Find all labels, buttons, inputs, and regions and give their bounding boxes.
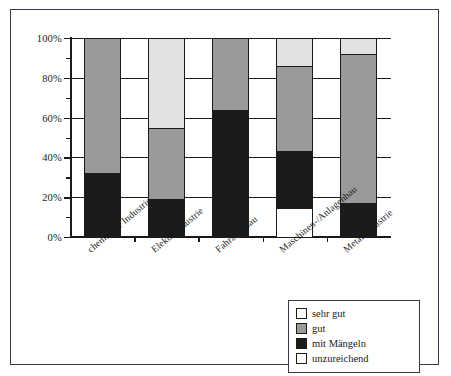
y-axis-tick-label: 80% [42, 72, 62, 83]
y-axis-tick-label: 40% [42, 152, 62, 163]
y-tick-minor [66, 217, 70, 218]
x-tick [327, 237, 328, 242]
legend-label: sehr gut [312, 308, 346, 319]
legend-item[interactable]: gut [296, 321, 413, 336]
y-tick-major [64, 118, 70, 119]
legend-label: gut [312, 323, 325, 334]
y-tick-major [64, 78, 70, 79]
bar-stack[interactable] [276, 38, 313, 237]
y-axis-tick-label: 60% [42, 112, 62, 123]
x-tick [263, 237, 264, 242]
y-tick-minor [66, 98, 70, 99]
y-axis-tick-label: 0% [48, 232, 62, 243]
bar-segment-sehr-gut[interactable] [340, 38, 377, 54]
bar-stack[interactable] [212, 38, 249, 237]
legend-item[interactable]: unzureichend [296, 351, 413, 366]
y-tick-minor [66, 58, 70, 59]
legend-swatch [296, 323, 307, 334]
bar-stack[interactable] [340, 38, 377, 237]
y-tick-major [64, 197, 70, 198]
y-axis-tick-label: 100% [37, 33, 62, 44]
bar-segment-gut[interactable] [276, 66, 313, 152]
bar-stack[interactable] [148, 38, 185, 237]
bar-stack[interactable] [84, 38, 121, 237]
legend-swatch [296, 308, 307, 319]
x-tick [198, 237, 199, 242]
y-tick-major [64, 237, 70, 238]
legend-label: mit Mängeln [312, 338, 366, 349]
x-tick [134, 237, 135, 242]
chart-legend: sehr gutgutmit Mängelnunzureichend [288, 300, 420, 373]
y-tick-minor [66, 177, 70, 178]
legend-label: unzureichend [312, 353, 369, 364]
bar-segment-mit-maengeln[interactable] [276, 151, 313, 209]
bar-segment-gut[interactable] [340, 54, 377, 203]
legend-swatch [296, 338, 307, 349]
bar-segment-gut[interactable] [84, 38, 121, 173]
legend-item[interactable]: mit Mängeln [296, 336, 413, 351]
bar-segment-sehr-gut[interactable] [276, 38, 313, 66]
y-tick-minor [66, 138, 70, 139]
y-tick-major [64, 157, 70, 158]
y-axis-tick-label: 20% [42, 192, 62, 203]
legend-item[interactable]: sehr gut [296, 306, 413, 321]
bar-segment-mit-maengeln[interactable] [212, 110, 249, 237]
y-tick-major [64, 38, 70, 39]
plot-area: 0%20%40%60%80%100% [70, 38, 391, 237]
bar-segment-gut[interactable] [148, 128, 185, 200]
bar-segment-gut[interactable] [212, 38, 249, 110]
legend-swatch [296, 353, 307, 364]
bar-segment-sehr-gut[interactable] [148, 38, 185, 128]
y-axis-line [70, 37, 72, 238]
chart-figure: 0%20%40%60%80%100% chemische IndustrieEl… [10, 9, 439, 365]
